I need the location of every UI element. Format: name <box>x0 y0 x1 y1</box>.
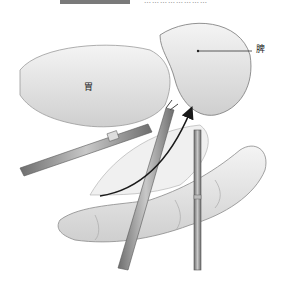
stomach-shape <box>20 45 170 127</box>
label-spleen: 脾 <box>256 42 265 55</box>
spleen-shape <box>160 23 252 115</box>
label-stomach: 胃 <box>84 80 93 93</box>
right-instrument <box>194 130 201 270</box>
surgical-illustration <box>0 0 282 292</box>
